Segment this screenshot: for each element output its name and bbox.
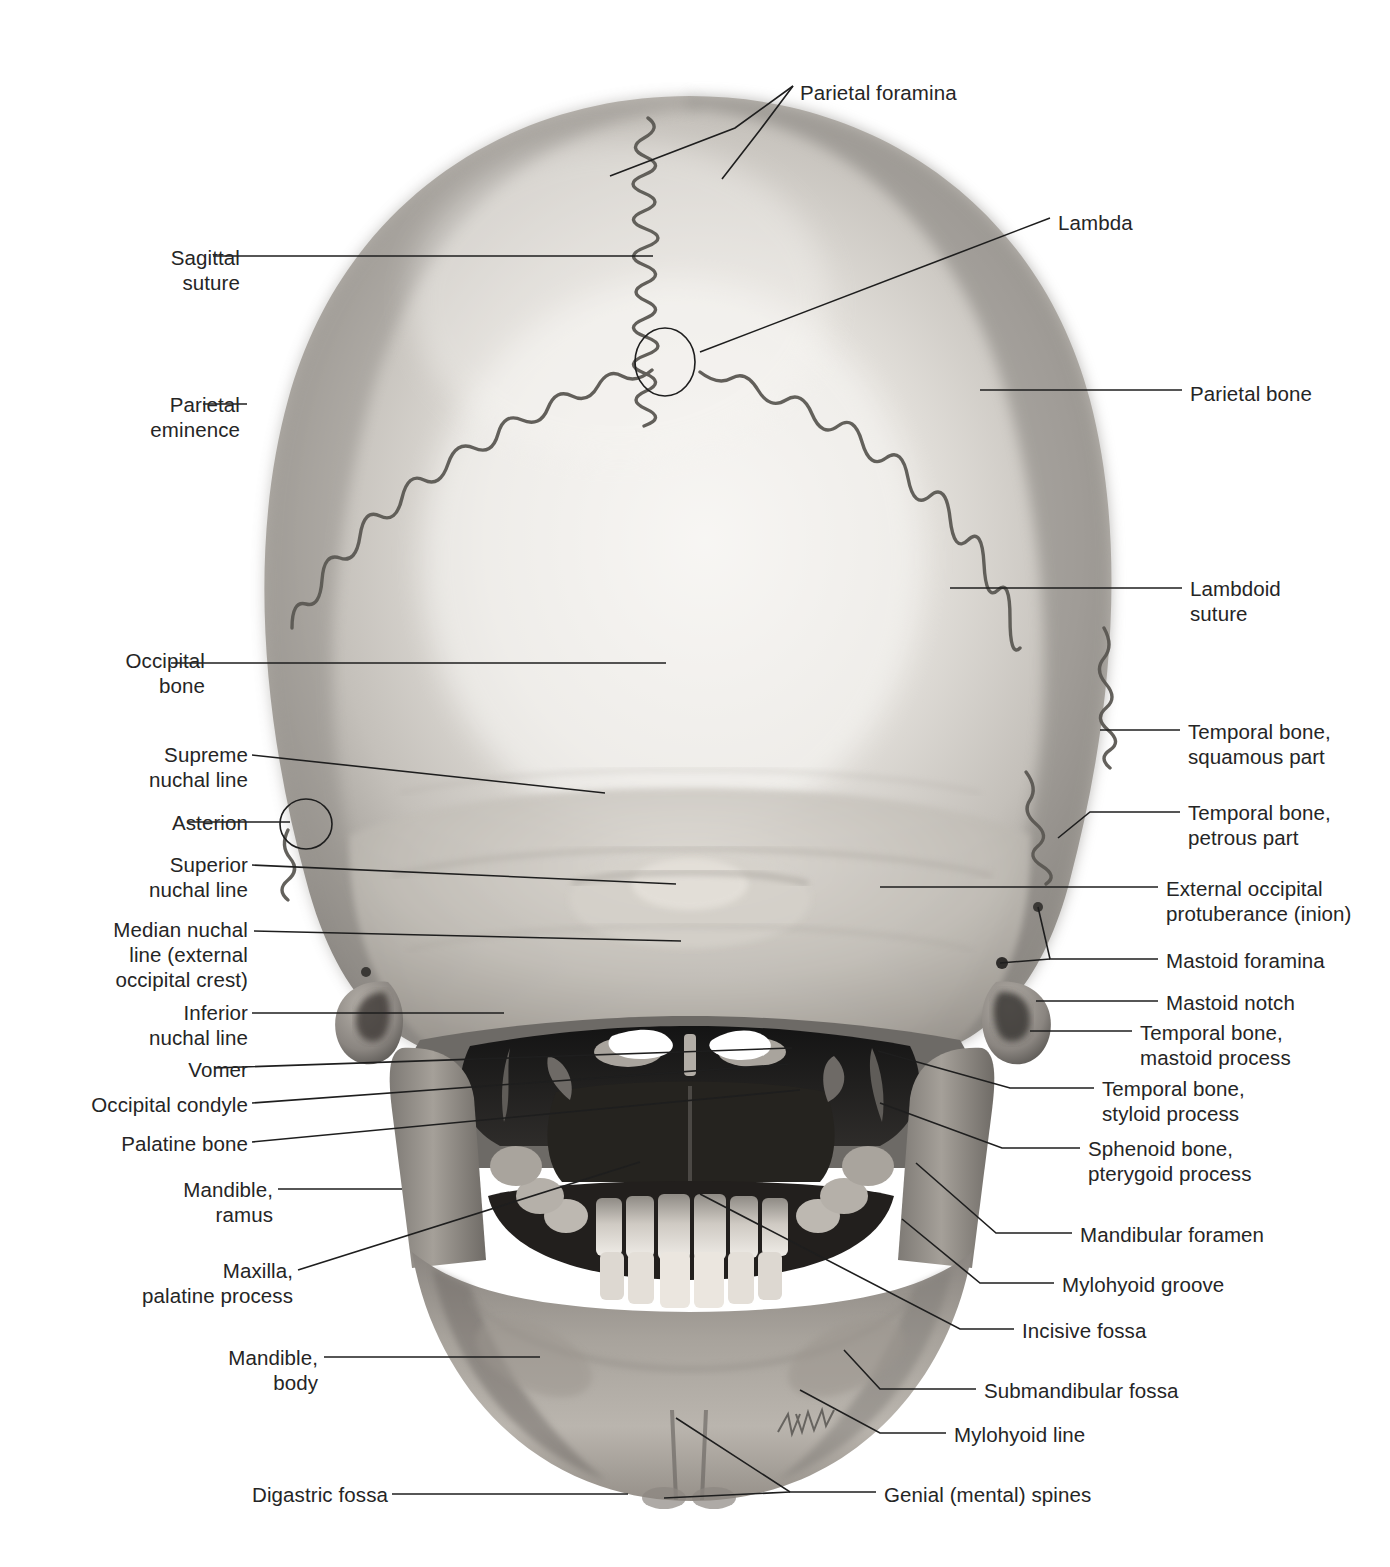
label-vomer: Vomer	[98, 1057, 248, 1082]
label-lambda: Lambda	[1058, 210, 1133, 235]
label-sagittal-suture: Sagittal suture	[120, 245, 240, 295]
label-inferior-nuchal-line: Inferior nuchal line	[78, 1000, 248, 1050]
label-incisive-fossa: Incisive fossa	[1022, 1318, 1146, 1343]
label-mylohyoid-line: Mylohyoid line	[954, 1422, 1085, 1447]
label-mandible-ramus: Mandible, ramus	[108, 1177, 273, 1227]
label-parietal-eminence: Parietal eminence	[110, 392, 240, 442]
label-mandible-body: Mandible, body	[148, 1345, 318, 1395]
label-mastoid-notch: Mastoid notch	[1166, 990, 1295, 1015]
label-parietal-foramina: Parietal foramina	[800, 80, 957, 105]
label-lambdoid-suture: Lambdoid suture	[1190, 576, 1281, 626]
label-superior-nuchal-line: Superior nuchal line	[78, 852, 248, 902]
label-sphenoid-bone-pterygoid-process: Sphenoid bone, pterygoid process	[1088, 1136, 1252, 1186]
label-temporal-bone-petrous: Temporal bone, petrous part	[1188, 800, 1331, 850]
label-genial-mental-spines: Genial (mental) spines	[884, 1482, 1091, 1507]
label-external-occipital-protuberance: External occipital protuberance (inion)	[1166, 876, 1351, 926]
label-digastric-fossa: Digastric fossa	[178, 1482, 388, 1507]
label-maxilla-palatine-process: Maxilla, palatine process	[78, 1258, 293, 1308]
label-submandibular-fossa: Submandibular fossa	[984, 1378, 1179, 1403]
label-temporal-bone-styloid-process: Temporal bone, styloid process	[1102, 1076, 1245, 1126]
label-median-nuchal-line: Median nuchal line (external occipital c…	[68, 917, 248, 992]
skull-posterior-view-figure: Sagittal sutureParietal eminenceOccipita…	[0, 0, 1390, 1567]
label-mastoid-foramina: Mastoid foramina	[1166, 948, 1325, 973]
label-temporal-bone-mastoid-process: Temporal bone, mastoid process	[1140, 1020, 1291, 1070]
label-occipital-bone: Occipital bone	[60, 648, 205, 698]
label-palatine-bone: Palatine bone	[68, 1131, 248, 1156]
label-asterion: Asterion	[88, 810, 248, 835]
label-supreme-nuchal-line: Supreme nuchal line	[78, 742, 248, 792]
label-mylohyoid-groove: Mylohyoid groove	[1062, 1272, 1224, 1297]
label-mandibular-foramen: Mandibular foramen	[1080, 1222, 1264, 1247]
label-occipital-condyle: Occipital condyle	[48, 1092, 248, 1117]
label-parietal-bone: Parietal bone	[1190, 381, 1312, 406]
occipitomastoid-suture-left	[282, 830, 295, 900]
label-temporal-bone-squamous: Temporal bone, squamous part	[1188, 719, 1331, 769]
